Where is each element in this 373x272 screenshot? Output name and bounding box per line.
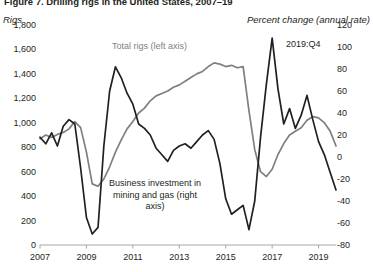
- left-axis-ticks: 02004006008001,0001,2001,4001,6001,800: [0, 0, 36, 272]
- right-axis-tick-label: 40: [337, 108, 371, 118]
- x-axis-tick-label: 2019: [299, 252, 339, 262]
- left-axis-tick-label: 800: [2, 142, 36, 152]
- right-axis-tick-label: 80: [337, 64, 371, 74]
- x-axis-tick-label: 2009: [66, 252, 106, 262]
- x-axis-tick-label: 2017: [252, 252, 292, 262]
- x-axis-tick-label: 2011: [113, 252, 153, 262]
- left-axis-tick-label: 600: [2, 167, 36, 177]
- left-axis-tick-label: 200: [2, 216, 36, 226]
- left-axis-tick-label: 1,200: [2, 93, 36, 103]
- left-axis-tick-label: 1,600: [2, 44, 36, 54]
- left-axis-tick-label: 1,400: [2, 69, 36, 79]
- right-axis-tick-label: -20: [337, 174, 371, 184]
- series-line-total-rigs: [40, 63, 336, 186]
- annotation-business-investment: Business investment in mining and gas (r…: [105, 178, 205, 213]
- x-axis-tick-label: 2007: [20, 252, 60, 262]
- right-axis-tick-label: 0: [337, 152, 371, 162]
- right-axis-ticks: -80-60-40-20020406080100120: [337, 0, 373, 272]
- right-axis-tick-label: -60: [337, 218, 371, 228]
- x-axis-tick-label: 2015: [206, 252, 246, 262]
- right-axis-tick-label: 100: [337, 42, 371, 52]
- x-axis-tick-label: 2013: [159, 252, 199, 262]
- left-axis-tick-label: 400: [2, 191, 36, 201]
- left-axis-tick-label: 1,000: [2, 118, 36, 128]
- right-axis-tick-label: 20: [337, 130, 371, 140]
- right-axis-tick-label: 120: [337, 20, 371, 30]
- chart-figure: Figure 7. Drilling rigs in the United St…: [0, 0, 373, 272]
- right-axis-tick-label: 60: [337, 86, 371, 96]
- figure-title: Figure 7. Drilling rigs in the United St…: [4, 0, 369, 8]
- x-axis-ticks: 2007200920112013201520172019: [0, 248, 373, 266]
- left-axis-tick-label: 1,800: [2, 20, 36, 30]
- right-axis-tick-label: -40: [337, 196, 371, 206]
- annotation-total-rigs: Total rigs (left axis): [112, 41, 187, 53]
- annotation-last-period: 2019:Q4: [286, 39, 321, 51]
